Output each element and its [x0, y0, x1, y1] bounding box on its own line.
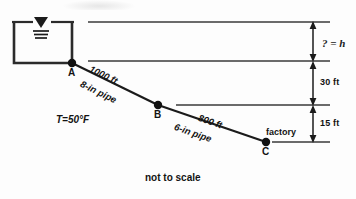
node-label-a: A [68, 68, 75, 78]
reservoir-tank [12, 22, 74, 63]
factory-label: factory [266, 128, 296, 137]
dimension-label-head-unknown: ? = h [322, 38, 345, 49]
dimension-stack [310, 21, 317, 143]
node-label-c: C [262, 147, 269, 157]
pipe-network-figure [0, 0, 356, 199]
dimension-label-drop-b-c: 15 ft [320, 119, 340, 128]
dimension-label-drop-a-b: 30 ft [320, 78, 340, 87]
figure-caption: not to scale [145, 173, 201, 183]
node-label-b: B [154, 110, 161, 120]
diagram-canvas: A B C 1000 ft 8-in pipe 800 ft 6-in pipe… [0, 0, 356, 199]
temperature-label: T=50°F [56, 115, 89, 125]
water-surface-triangle-icon [33, 17, 49, 38]
